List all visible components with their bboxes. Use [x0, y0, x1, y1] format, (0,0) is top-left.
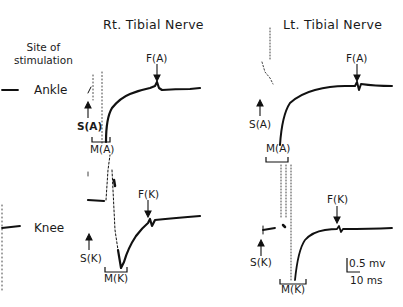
row-header: Site of stimulation: [14, 41, 73, 67]
label-s-a-left: S(A): [249, 118, 271, 130]
label-f-k-left: F(K): [327, 193, 348, 205]
label-s-k-right: S(K): [80, 252, 102, 264]
label-m-a-right: M(A): [90, 143, 114, 155]
label-m-k-right: M(K): [104, 272, 128, 284]
arrows: [85, 64, 360, 256]
label-s-k-left: S(K): [250, 256, 272, 268]
label-f-k-right: F(K): [138, 188, 159, 200]
trace-right-knee: [88, 155, 200, 268]
row-label-ankle: Ankle: [34, 83, 67, 97]
trace-right-ankle: [88, 72, 200, 145]
label-s-a-right: S(A): [77, 120, 102, 132]
label-m-a-left: M(A): [266, 142, 290, 154]
column-title-left: Lt. Tibial Nerve: [283, 17, 382, 32]
scale-amplitude: 0.5 mv: [349, 257, 385, 269]
column-title-right: Rt. Tibial Nerve: [103, 17, 204, 32]
scale-time: 10 ms: [350, 274, 382, 286]
label-f-a-left: F(A): [346, 52, 367, 64]
row-label-knee: Knee: [34, 221, 64, 235]
label-f-a-right: F(A): [146, 52, 167, 64]
label-m-k-left: M(K): [281, 283, 305, 295]
